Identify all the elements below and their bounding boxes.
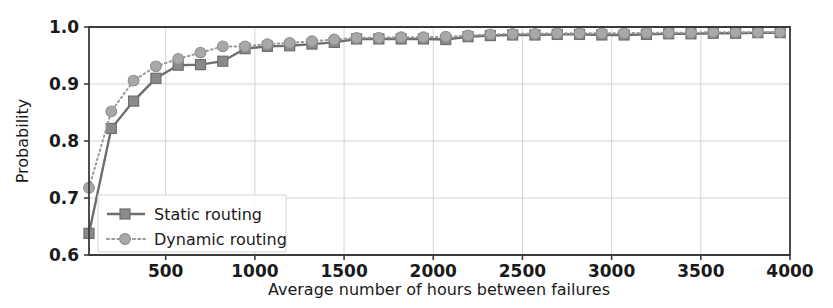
probability-line-chart: 5001000150020002500300035004000 0.60.70.… <box>0 0 833 308</box>
data-point-circle-marker <box>329 34 340 45</box>
x-tick-label: 2000 <box>410 261 457 281</box>
data-point-circle-marker <box>106 106 117 117</box>
data-point-circle-marker <box>530 28 541 39</box>
data-point-circle-marker <box>284 38 295 49</box>
data-point-circle-marker <box>574 28 585 39</box>
data-point-circle-marker <box>373 32 384 43</box>
y-tick-label: 0.7 <box>49 188 79 208</box>
data-point-circle-marker <box>173 54 184 65</box>
data-point-square-marker <box>106 123 116 133</box>
data-point-circle-marker <box>686 27 697 38</box>
y-axis-label: Probability <box>13 99 32 184</box>
data-point-circle-marker <box>262 39 273 50</box>
x-tick-label: 4000 <box>766 261 813 281</box>
data-point-circle-marker <box>351 32 362 43</box>
data-point-circle-marker <box>619 28 630 39</box>
data-point-circle-marker <box>195 47 206 58</box>
x-tick-label: 2500 <box>499 261 546 281</box>
data-point-circle-marker <box>507 28 518 39</box>
chart-legend[interactable]: Static routing Dynamic routing <box>98 195 287 252</box>
data-point-circle-marker <box>730 27 741 38</box>
x-tick-label: 1500 <box>320 261 367 281</box>
data-point-circle-marker <box>663 27 674 38</box>
y-tick-label: 0.6 <box>49 245 79 265</box>
data-point-circle-marker <box>596 28 607 39</box>
y-tick-label: 0.8 <box>49 131 79 151</box>
y-tick-label: 1.0 <box>49 17 79 37</box>
data-point-square-marker <box>218 56 228 66</box>
data-point-square-marker <box>195 60 205 70</box>
data-point-circle-marker <box>307 36 318 47</box>
x-tick-label: 1000 <box>231 261 278 281</box>
data-point-square-marker <box>129 96 139 106</box>
data-point-circle-marker <box>217 41 228 52</box>
legend-marker-static-square-icon <box>120 209 130 219</box>
x-axis-label: Average number of hours between failures <box>268 280 610 299</box>
x-tick-label: 3000 <box>588 261 635 281</box>
data-point-circle-marker <box>775 27 786 38</box>
data-point-circle-marker <box>128 75 139 86</box>
data-point-square-marker <box>151 73 161 83</box>
data-point-circle-marker <box>752 27 763 38</box>
x-tick-label: 500 <box>148 261 184 281</box>
legend-marker-dynamic-circle-icon <box>120 234 131 245</box>
data-point-circle-marker <box>552 28 563 39</box>
data-point-circle-marker <box>418 32 429 43</box>
data-point-circle-marker <box>485 29 496 40</box>
legend-label-dynamic: Dynamic routing <box>154 230 287 249</box>
data-point-circle-marker <box>440 31 451 42</box>
y-tick-label: 0.9 <box>49 74 79 94</box>
data-point-circle-marker <box>150 61 161 72</box>
data-point-circle-marker <box>641 27 652 38</box>
data-point-circle-marker <box>708 27 719 38</box>
x-tick-label: 3500 <box>677 261 724 281</box>
data-point-circle-marker <box>463 30 474 41</box>
legend-label-static: Static routing <box>154 205 262 224</box>
data-point-circle-marker <box>240 41 251 52</box>
data-point-circle-marker <box>396 32 407 43</box>
chart-figure: 5001000150020002500300035004000 0.60.70.… <box>0 0 833 308</box>
